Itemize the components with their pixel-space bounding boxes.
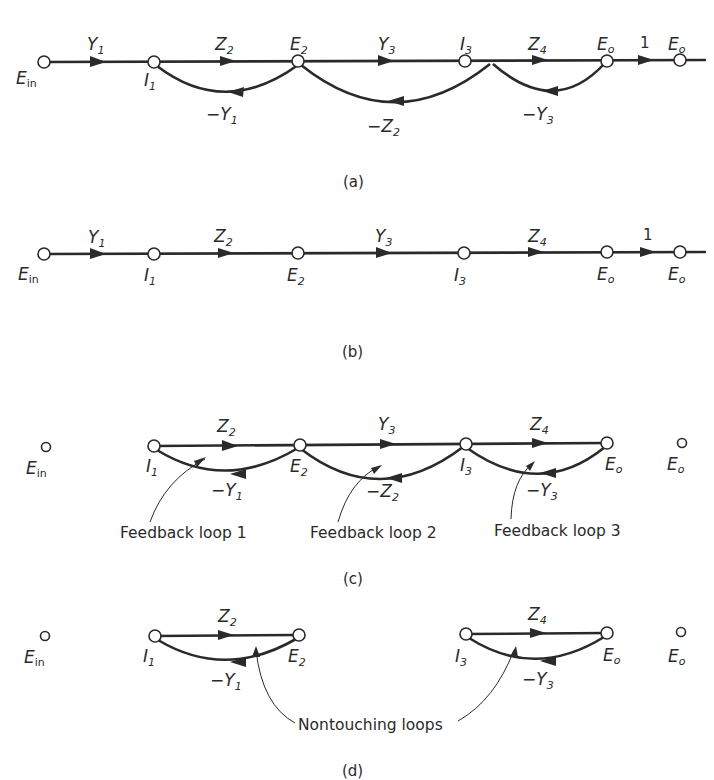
arrow-icon <box>526 461 535 471</box>
label-eo: Eo <box>603 645 621 667</box>
feedback-branch-neg-y3 <box>467 447 605 474</box>
node-i1 <box>148 248 160 260</box>
node-e2 <box>292 247 304 259</box>
panel-b: Y1 Z2 Y3 Z4 1 Ein I1 E2 I3 Eo Eo (b) <box>18 226 706 361</box>
caption-d: (d) <box>342 762 363 780</box>
node-ein <box>42 443 51 452</box>
annotation-loop3: Feedback loop 3 <box>494 522 621 540</box>
node-eo <box>601 55 613 67</box>
label-unity-gain: 1 <box>640 34 650 52</box>
label-e2: E2 <box>288 646 306 669</box>
label-neg-y1: −Y1 <box>210 670 242 693</box>
annotation-nontouching-loops: Nontouching loops <box>298 716 443 734</box>
label-z4: Z4 <box>527 34 547 57</box>
label-eo-out: Eo <box>668 646 686 668</box>
label-neg-y1: −Y1 <box>211 480 243 503</box>
label-y1: Y1 <box>88 227 105 250</box>
arrow-icon <box>252 646 260 657</box>
arrow-icon <box>388 96 404 106</box>
node-eo-out <box>677 628 686 637</box>
arrow-icon <box>194 457 206 467</box>
label-z2: Z2 <box>214 34 234 57</box>
feedback-branch-neg-z2 <box>301 64 490 102</box>
node-i1 <box>148 56 160 68</box>
feedback-branch-neg-y1 <box>157 65 298 92</box>
arrow-icon <box>542 86 558 96</box>
node-e2 <box>293 629 305 641</box>
label-eo-out: Eo <box>667 454 685 476</box>
arrow-icon <box>222 440 238 451</box>
node-eo <box>601 437 613 449</box>
panel-d: Ein Eo Z2 I1 E2 −Y1 Z4 I3 Eo −Y3 Nontouc… <box>24 604 686 780</box>
node-i3 <box>460 438 472 450</box>
caption-c: (c) <box>343 570 363 588</box>
arrow-icon <box>90 56 106 67</box>
label-y3: Y3 <box>378 34 395 57</box>
label-e2: E2 <box>290 456 308 479</box>
arrow-icon <box>638 55 654 65</box>
label-i1: I1 <box>144 265 156 288</box>
label-eo-out: Eo <box>668 34 686 56</box>
node-eo <box>601 246 613 258</box>
feedback-branch-neg-y3 <box>469 637 604 659</box>
node-ein <box>38 56 50 68</box>
label-ein: Ein <box>16 68 37 90</box>
arrow-icon <box>218 248 234 258</box>
feedback-branch-neg-y1 <box>158 639 296 660</box>
panel-c: Ein Eo Z2 Y3 Z4 I1 E2 I3 Eo −Y1 −Z2 −Y3 <box>26 414 687 588</box>
arrow-icon <box>540 468 556 478</box>
caption-a: (a) <box>343 173 364 191</box>
label-y3: Y3 <box>378 414 395 437</box>
label-z4: Z4 <box>529 414 549 437</box>
label-z4: Z4 <box>527 604 547 627</box>
label-y3: Y3 <box>375 226 392 249</box>
label-z2: Z2 <box>213 226 233 249</box>
node-i1 <box>148 440 160 452</box>
label-e2: E2 <box>290 34 308 57</box>
label-neg-y3: −Y3 <box>522 669 554 692</box>
label-eo: Eo <box>605 454 623 476</box>
label-i3: I3 <box>460 455 472 478</box>
label-neg-z2: −Z2 <box>366 481 399 504</box>
arrow-icon <box>640 247 656 257</box>
label-z2: Z2 <box>216 416 236 439</box>
node-eo-out <box>678 439 687 448</box>
label-neg-y1: −Y1 <box>206 104 238 127</box>
node-i1 <box>149 630 161 642</box>
label-i1: I1 <box>143 646 155 669</box>
label-neg-y3: −Y3 <box>526 480 558 503</box>
caption-b: (b) <box>342 343 363 361</box>
arrow-icon <box>530 628 546 638</box>
node-e2 <box>294 439 306 451</box>
annotation-loop1: Feedback loop 1 <box>120 524 247 542</box>
label-i1: I1 <box>146 456 158 479</box>
panel-a: Y1 Z2 E2 Y3 I3 Z4 Eo 1 Eo Ein I1 −Y1 −Z2… <box>16 34 706 191</box>
arrow-icon <box>228 87 244 97</box>
label-ein: Ein <box>18 264 39 286</box>
label-ein: Ein <box>26 458 47 480</box>
node-i3 <box>460 628 472 640</box>
label-z4: Z4 <box>527 226 547 249</box>
feedback-branch-neg-y1 <box>157 448 298 471</box>
label-i3: I3 <box>460 34 472 57</box>
node-i3 <box>458 247 470 259</box>
label-neg-z2: −Z2 <box>367 116 400 139</box>
node-ein <box>38 248 50 260</box>
arrow-icon <box>220 56 236 66</box>
label-eo-out: Eo <box>668 264 686 286</box>
label-eo: Eo <box>597 264 615 286</box>
arrow-icon <box>218 630 234 640</box>
arrow-icon <box>532 438 548 448</box>
node-eo <box>601 627 613 639</box>
label-ein: Ein <box>24 647 45 669</box>
arrow-icon <box>380 439 396 449</box>
node-eo-out <box>674 246 686 258</box>
feedback-branch-neg-z2 <box>301 447 463 479</box>
label-i3: I3 <box>454 265 466 288</box>
arrow-icon <box>371 465 382 474</box>
label-neg-y3: −Y3 <box>522 104 554 127</box>
label-eo: Eo <box>597 34 615 56</box>
label-i1: I1 <box>144 70 156 93</box>
label-z2: Z2 <box>217 606 237 629</box>
label-i3: I3 <box>455 646 467 669</box>
